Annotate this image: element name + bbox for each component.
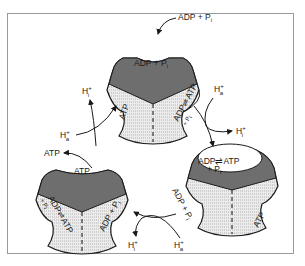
proton-in-label: H+a: [214, 83, 224, 96]
proton-out-label: H+i: [128, 239, 138, 252]
proton-flow-bottom: H+a H+i: [128, 212, 184, 252]
proton-out-label: H+i: [236, 125, 246, 138]
proton-flow-upper-right: H+a H+i: [194, 83, 246, 146]
left-external-output: ATP: [44, 148, 60, 158]
top-external-input: ADP + Pi: [178, 12, 212, 23]
left-site-label: ATP: [74, 166, 90, 176]
top-site-label: ADP + Pi: [134, 58, 168, 69]
proton-in-label: H+a: [60, 129, 70, 142]
right-site-label-2: + Pi: [207, 164, 221, 175]
atp-synthase-diagram: ADP + Pi ADP + Pi ATP ADP⇌ATP + Pi ADP⇌A…: [0, 0, 305, 266]
proton-in-label: H+a: [174, 239, 184, 252]
proton-out-label: H+i: [82, 85, 92, 98]
top-right-face-label-2: + Pi: [182, 114, 194, 127]
proton-flow-upper-left: H+a H+i: [60, 85, 116, 146]
arrow-adp-in: [158, 18, 176, 34]
